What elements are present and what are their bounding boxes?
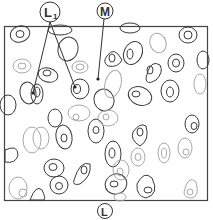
l1-point-b — [73, 85, 76, 88]
label-m: M — [97, 3, 113, 19]
svg-text:M: M — [100, 5, 110, 19]
svg-text:L: L — [44, 5, 52, 20]
label-l: L — [98, 204, 113, 219]
svg-text:1: 1 — [53, 12, 58, 21]
l1-point-a — [31, 91, 34, 94]
m-point — [96, 77, 99, 80]
cells-dark — [0, 23, 209, 200]
label-pointers — [33, 19, 104, 93]
svg-text:L: L — [101, 206, 108, 218]
label-l1: L 1 — [40, 2, 60, 22]
cells-light — [9, 31, 206, 201]
cell-diagram: L 1 M L — [0, 0, 213, 220]
